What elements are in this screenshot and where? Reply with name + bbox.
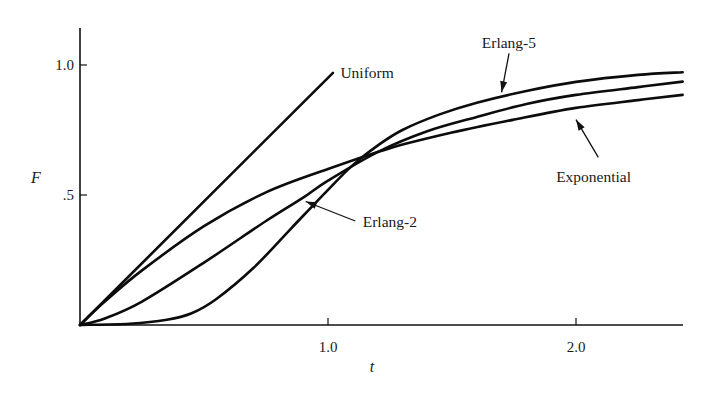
x-tick-label: 2.0 xyxy=(567,339,586,355)
plot-area: 1.02.0.51.0 UniformExponentialErlang-2Er… xyxy=(30,28,683,375)
erlang-2-label: Erlang-2 xyxy=(363,213,417,230)
series-curves xyxy=(80,72,683,325)
arrowhead-icon xyxy=(576,120,585,131)
exponential-label: Exponential xyxy=(556,168,631,185)
x-tick-label: 1.0 xyxy=(319,339,338,355)
erlang-5-label: Erlang-5 xyxy=(482,34,536,51)
axis-ticks: 1.02.0.51.0 xyxy=(55,57,585,355)
y-tick-label: .5 xyxy=(63,187,74,203)
x-axis-title: t xyxy=(370,358,375,375)
erlang-5-curve xyxy=(80,72,683,325)
erlang-2-curve xyxy=(80,82,683,325)
y-tick-label: 1.0 xyxy=(55,57,74,73)
exponential-curve xyxy=(80,95,683,325)
series-annotations: UniformExponentialErlang-2Erlang-5 xyxy=(306,34,631,230)
uniform-label: Uniform xyxy=(340,64,393,81)
y-axis-title: F xyxy=(30,169,41,186)
cdf-comparison-chart: 1.02.0.51.0 UniformExponentialErlang-2Er… xyxy=(0,0,709,395)
arrowhead-icon xyxy=(500,81,507,92)
uniform-curve xyxy=(80,73,333,325)
